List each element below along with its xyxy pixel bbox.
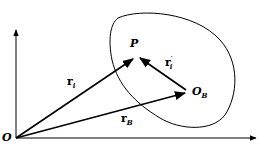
body-origin-letter: O <box>192 85 202 98</box>
diagram-canvas <box>0 0 261 153</box>
r-i-prime-sub: i <box>170 62 173 71</box>
r-B-label: rB <box>121 113 133 126</box>
body-outline <box>110 13 235 127</box>
vector-r-i-prime <box>140 58 186 90</box>
rigid-body-vector-diagram: O P OB ri r′i rB <box>0 0 261 153</box>
vector-r-B <box>16 93 185 138</box>
r-i-prime-label: r′i <box>165 55 172 70</box>
point-p-label: P <box>130 38 138 49</box>
body-origin-sub: B <box>202 91 208 100</box>
r-i-sub: i <box>73 81 76 90</box>
r-B-sub: B <box>127 118 133 127</box>
r-i-label: ri <box>67 76 75 89</box>
vector-r-i <box>16 59 133 138</box>
origin-label: O <box>2 132 12 143</box>
body-origin-label: OB <box>192 86 208 99</box>
